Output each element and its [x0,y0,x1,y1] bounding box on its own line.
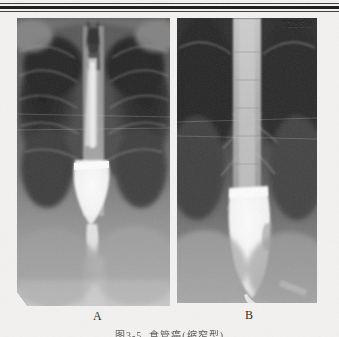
figure-caption-number: 图3-5 [115,330,142,337]
panel-label-a: A [93,310,102,322]
figure-container: TZ85M A B 图3-5食管癌(缩窄型) [0,0,339,337]
xray-image-a [17,18,170,306]
scanned-book-page: TZ85M A B 图3-5食管癌(缩窄型) [0,0,339,337]
panel-label-b: B [245,309,253,321]
figure-caption-title: 食管癌(缩窄型) [149,330,224,337]
figure-caption: 图3-5食管癌(缩窄型) [0,327,339,337]
xray-image-b: TZ85M [177,18,317,303]
